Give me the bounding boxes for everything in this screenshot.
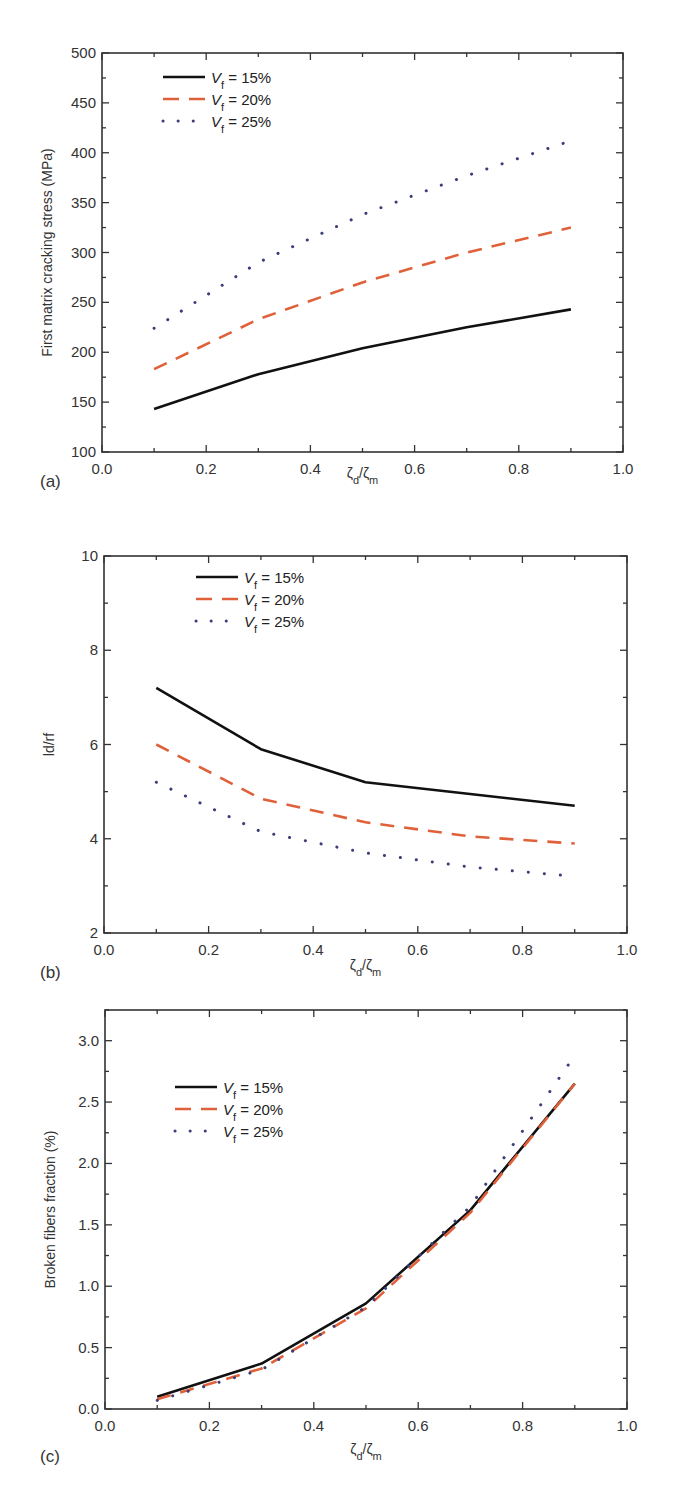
plot-frame — [104, 556, 627, 933]
series-line-3 — [154, 141, 571, 328]
x-tick-label: 0.4 — [300, 460, 321, 477]
y-tick-label: 250 — [71, 293, 96, 310]
legend-entry: Vf = 25% — [244, 613, 304, 635]
legend-entry: Vf = 25% — [211, 113, 271, 135]
series-line-3 — [157, 1055, 575, 1400]
x-tick-label: 0.6 — [408, 1417, 429, 1434]
y-axis-label: First matrix cracking stress (MPa) — [39, 148, 55, 356]
x-tick-label: 0.6 — [404, 460, 425, 477]
x-tick-label: 0.2 — [196, 460, 217, 477]
panel-label: (a) — [40, 472, 61, 491]
y-tick-label: 8 — [90, 641, 98, 658]
y-tick-label: 500 — [71, 44, 96, 61]
plot-frame — [105, 1010, 627, 1409]
y-axis: 246810 — [81, 547, 627, 941]
y-axis-label: ld/rf — [41, 733, 57, 756]
x-tick-label: 1.0 — [613, 460, 634, 477]
x-tick-label: 0.0 — [94, 941, 115, 958]
legend: Vf = 15%Vf = 20%Vf = 25% — [175, 1079, 283, 1145]
y-tick-label: 2 — [90, 924, 98, 941]
x-tick-label: 0.8 — [512, 1417, 533, 1434]
panel-label: (c) — [40, 1447, 60, 1466]
x-tick-label: 0.4 — [303, 941, 324, 958]
legend-entry: Vf = 15% — [223, 1079, 283, 1101]
y-tick-label: 200 — [71, 343, 96, 360]
series-line-1 — [156, 688, 574, 806]
x-tick-label: 0.6 — [407, 941, 428, 958]
y-tick-label: 100 — [71, 443, 96, 460]
x-axis: 0.00.20.40.60.81.0 — [92, 53, 634, 477]
y-tick-label: 0.5 — [78, 1339, 99, 1356]
x-tick-label: 1.0 — [617, 1417, 638, 1434]
series-line-3 — [156, 782, 574, 876]
series-line-1 — [157, 1084, 575, 1397]
legend-entry: Vf = 20% — [223, 1101, 283, 1123]
x-tick-label: 0.0 — [92, 460, 113, 477]
chart-c: 0.00.20.40.60.81.00.00.51.01.52.02.53.0B… — [0, 990, 675, 1496]
y-tick-label: 450 — [71, 94, 96, 111]
y-tick-label: 3.0 — [78, 1032, 99, 1049]
y-tick-label: 0.0 — [78, 1400, 99, 1417]
x-tick-label: 0.0 — [95, 1417, 116, 1434]
legend-entry: Vf = 20% — [211, 91, 271, 113]
legend-entry: Vf = 25% — [223, 1123, 283, 1145]
y-tick-label: 150 — [71, 393, 96, 410]
x-axis-label: ζd/ζm — [350, 1441, 382, 1462]
legend-entry: Vf = 20% — [244, 591, 304, 613]
y-axis: 100150200250300350400450500 — [71, 44, 623, 460]
y-axis-label: Broken fibers fraction (%) — [42, 1131, 58, 1289]
x-tick-label: 0.2 — [199, 1417, 220, 1434]
chart-panel-c: 0.00.20.40.60.81.00.00.51.01.52.02.53.0B… — [0, 990, 675, 1496]
legend-entry: Vf = 15% — [244, 569, 304, 591]
x-tick-label: 1.0 — [617, 941, 638, 958]
y-axis: 0.00.51.01.52.02.53.0 — [78, 1010, 627, 1417]
plot-frame — [102, 53, 623, 452]
y-tick-label: 2.5 — [78, 1093, 99, 1110]
y-tick-label: 6 — [90, 736, 98, 753]
x-axis-label: ζd/ζm — [347, 465, 379, 486]
legend: Vf = 15%Vf = 20%Vf = 25% — [196, 569, 304, 635]
y-tick-label: 2.0 — [78, 1154, 99, 1171]
series-line-2 — [157, 1084, 575, 1400]
x-axis-label: ζd/ζm — [350, 957, 382, 978]
y-tick-label: 300 — [71, 244, 96, 261]
y-tick-label: 1.0 — [78, 1277, 99, 1294]
legend-entry: Vf = 15% — [211, 69, 271, 91]
y-tick-label: 350 — [71, 194, 96, 211]
series-line-1 — [154, 309, 571, 409]
y-tick-label: 10 — [81, 547, 98, 564]
x-tick-label: 0.2 — [198, 941, 219, 958]
x-tick-label: 0.4 — [303, 1417, 324, 1434]
chart-panel-b: 0.00.20.40.60.81.0246810ld/rfζd/ζm(b)Vf … — [0, 500, 675, 990]
y-tick-label: 1.5 — [78, 1216, 99, 1233]
series-line-2 — [156, 745, 574, 844]
chart-b: 0.00.20.40.60.81.0246810ld/rfζd/ζm(b)Vf … — [0, 500, 675, 990]
y-tick-label: 4 — [90, 830, 98, 847]
legend: Vf = 15%Vf = 20%Vf = 25% — [163, 69, 271, 135]
x-axis: 0.00.20.40.60.81.0 — [95, 1010, 638, 1434]
chart-panel-a: 0.00.20.40.60.81.01001502002503003504004… — [0, 0, 675, 500]
y-tick-label: 400 — [71, 144, 96, 161]
chart-a: 0.00.20.40.60.81.01001502002503003504004… — [0, 0, 675, 500]
x-axis: 0.00.20.40.60.81.0 — [94, 556, 638, 958]
panel-label: (b) — [40, 963, 61, 982]
x-tick-label: 0.8 — [512, 941, 533, 958]
x-tick-label: 0.8 — [508, 460, 529, 477]
